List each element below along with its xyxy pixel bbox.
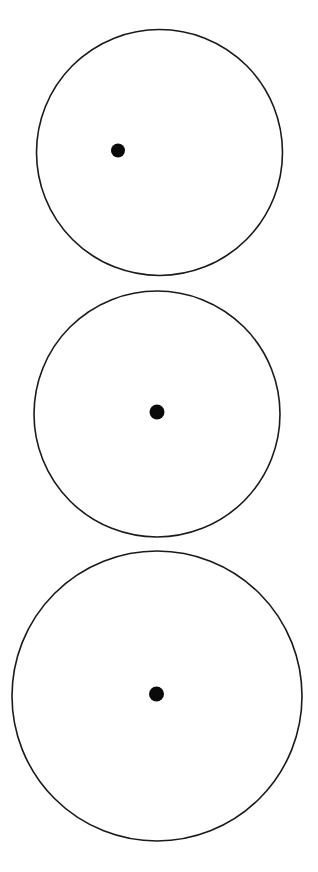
figure-top xyxy=(37,30,283,276)
top-circle-dot xyxy=(111,144,125,158)
figure-middle xyxy=(34,291,280,537)
middle-circle-dot xyxy=(150,405,165,420)
figure-bottom xyxy=(12,551,302,841)
top-circle-outline xyxy=(37,30,283,276)
bottom-circle-dot xyxy=(149,687,164,702)
figure-page xyxy=(0,0,318,872)
three-circles-figure xyxy=(0,0,318,872)
